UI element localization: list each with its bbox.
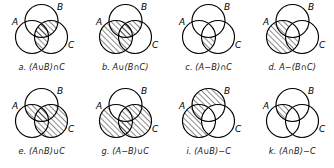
label-A: A xyxy=(11,101,18,111)
shaded-region-group-k xyxy=(251,85,334,147)
shaded-region-group-a xyxy=(0,1,84,63)
venn-caption-i: i. (A∪B)−C xyxy=(167,146,251,157)
label-A: A xyxy=(11,17,18,27)
label-B: B xyxy=(141,86,147,96)
label-B: B xyxy=(308,2,314,12)
shaded-region-group-d xyxy=(251,1,334,63)
label-B: B xyxy=(224,86,230,96)
venn-panel-i[interactable]: A B C i. (A∪B)−C xyxy=(167,84,251,168)
label-B: B xyxy=(308,86,314,96)
venn-row-top: A B C a. (A∪B)∩C xyxy=(0,0,334,84)
label-B: B xyxy=(224,2,230,12)
shaded-region-group-i xyxy=(167,85,251,147)
label-C: C xyxy=(235,40,242,50)
label-C: C xyxy=(68,124,75,134)
venn-caption-e: e. (A∩B)∪C xyxy=(0,146,84,157)
label-C: C xyxy=(235,124,242,134)
venn-panel-b[interactable]: A B C b. A∪(B∩C) xyxy=(84,0,168,84)
label-A: A xyxy=(262,17,269,27)
venn-panel-d[interactable]: A B C d. A−(B∩C) xyxy=(251,0,334,84)
label-A: A xyxy=(95,101,102,111)
label-C: C xyxy=(152,124,159,134)
venn-caption-d: d. A−(B∩C) xyxy=(251,62,334,73)
venn-caption-g: g. (A−B)∪C xyxy=(84,146,168,157)
label-C: C xyxy=(68,40,75,50)
venn-diagram-e: A B C xyxy=(0,85,84,147)
label-B: B xyxy=(57,86,63,96)
venn-diagram-figure: A B C a. (A∪B)∩C xyxy=(0,0,334,168)
label-A: A xyxy=(95,17,102,27)
label-C: C xyxy=(319,40,326,50)
venn-diagram-i: A B C xyxy=(167,85,251,147)
venn-panel-g[interactable]: A B C g. (A−B)∪C xyxy=(84,84,168,168)
label-B: B xyxy=(141,2,147,12)
label-A: A xyxy=(262,101,269,111)
label-C: C xyxy=(152,40,159,50)
shaded-region-group-c xyxy=(167,1,251,63)
venn-diagram-a: A B C xyxy=(0,1,84,63)
shaded-region-group-g xyxy=(84,85,168,147)
venn-caption-k: k. (A∩B)−C xyxy=(251,146,334,157)
venn-caption-c: c. (A−B)∩C xyxy=(167,62,251,73)
venn-caption-b: b. A∪(B∩C) xyxy=(84,62,168,73)
venn-panel-c[interactable]: A B C c. (A−B)∩C xyxy=(167,0,251,84)
venn-diagram-c: A B C xyxy=(167,1,251,63)
shaded-region-group-e xyxy=(0,85,84,147)
venn-diagram-g: A B C xyxy=(84,85,168,147)
venn-panel-k[interactable]: A B C k. (A∩B)−C xyxy=(251,84,334,168)
venn-row-bottom: A B C e. (A∩B)∪C xyxy=(0,84,334,168)
label-C: C xyxy=(319,124,326,134)
venn-panel-e[interactable]: A B C e. (A∩B)∪C xyxy=(0,84,84,168)
venn-caption-a: a. (A∪B)∩C xyxy=(0,62,84,73)
label-A: A xyxy=(178,17,185,27)
venn-diagram-b: A B C xyxy=(84,1,168,63)
venn-diagram-d: A B C xyxy=(251,1,334,63)
shaded-region-group-b xyxy=(84,1,168,63)
venn-panel-a[interactable]: A B C a. (A∪B)∩C xyxy=(0,0,84,84)
label-B: B xyxy=(57,2,63,12)
venn-diagram-k: A B C xyxy=(251,85,334,147)
label-A: A xyxy=(178,101,185,111)
